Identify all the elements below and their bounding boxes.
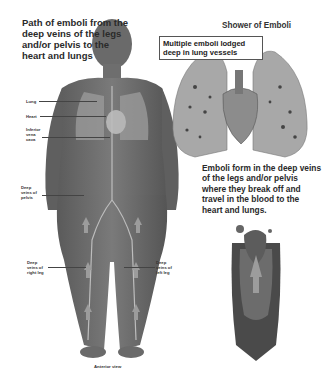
leader-line bbox=[42, 195, 84, 196]
right-caption: Emboli form in the deep veins of the leg… bbox=[202, 163, 322, 215]
label-heart: Heart bbox=[26, 114, 37, 119]
leader-line bbox=[39, 101, 97, 102]
leader-line bbox=[48, 267, 86, 268]
label-right-leg: Deep veins of right leg bbox=[27, 260, 49, 275]
label-left-leg: Deep veins of left leg bbox=[156, 260, 176, 275]
leader-line bbox=[124, 267, 155, 268]
label-lung: Lung bbox=[26, 99, 36, 104]
leader-line bbox=[40, 116, 106, 117]
view-caption: Anterior view bbox=[94, 364, 121, 369]
right-title: Shower of Emboli bbox=[222, 21, 291, 30]
label-pelvis: Deep veins of pelvis bbox=[21, 185, 43, 200]
vein-embolus-illustration bbox=[226, 225, 286, 365]
callout-box: Multiple emboli lodged deep in lung vess… bbox=[159, 36, 263, 60]
left-title: Path of emboli from the deep veins of th… bbox=[22, 17, 132, 61]
leader-line bbox=[42, 137, 110, 138]
label-ivc: Inferior vena cava bbox=[26, 127, 46, 142]
